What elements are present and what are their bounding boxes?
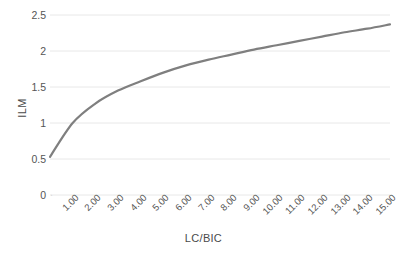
y-tick-label: 2 — [18, 45, 46, 57]
plot-area — [50, 15, 390, 195]
y-tick-label: 2.5 — [18, 9, 46, 21]
y-tick-label: 1.5 — [18, 81, 46, 93]
data-series-line — [50, 24, 390, 156]
line-chart: ILM 00.511.522.5 ·1.002.003.004.005.006.… — [0, 0, 407, 256]
y-tick-label: 0.5 — [18, 153, 46, 165]
x-axis-tick-labels: ·1.002.003.004.005.006.007.008.009.0010.… — [0, 192, 407, 237]
plot-svg — [50, 15, 390, 195]
gridlines — [50, 15, 390, 195]
x-axis-title: LC/BIC — [0, 232, 407, 244]
y-tick-label: 1 — [18, 117, 46, 129]
